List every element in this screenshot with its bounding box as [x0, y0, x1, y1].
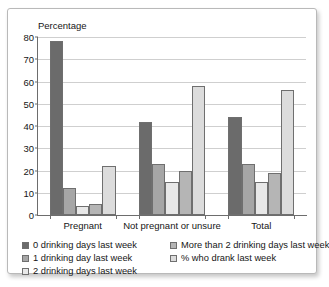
bar	[139, 122, 152, 215]
bar	[76, 206, 89, 215]
legend-label: 0 drinking days last week	[33, 240, 137, 250]
bar	[242, 164, 255, 215]
gridline: 70	[38, 59, 306, 60]
plot-area: 01020304050607080	[38, 37, 306, 215]
legend-item[interactable]: 2 drinking days last week	[22, 265, 137, 277]
y-axis-tick-label: 60	[23, 76, 34, 87]
x-axis-line	[37, 215, 307, 216]
x-axis-category-label: Not pregnant or unsure	[123, 220, 221, 231]
legend-column-right: More than 2 drinking days last week% who…	[170, 239, 329, 265]
x-axis-tick-mark	[228, 215, 229, 219]
y-axis-tick-label: 20	[23, 165, 34, 176]
legend-item[interactable]: More than 2 drinking days last week	[170, 239, 329, 251]
legend-item[interactable]: 1 drinking day last week	[22, 252, 137, 264]
x-axis-category-label: Pregnant	[63, 220, 102, 231]
bar	[192, 86, 205, 215]
bar	[281, 90, 294, 215]
y-axis-title: Percentage	[38, 20, 87, 31]
legend-swatch	[22, 242, 29, 249]
x-axis-tick-mark	[294, 215, 295, 219]
y-axis-tick-mark	[35, 170, 38, 171]
x-axis-tick-mark	[139, 215, 140, 219]
y-axis-tick-label: 30	[23, 143, 34, 154]
bar	[102, 166, 115, 215]
y-axis-tick-label: 0	[29, 210, 34, 221]
legend-swatch	[22, 255, 29, 262]
y-axis-tick-mark	[35, 148, 38, 149]
gridline: 40	[38, 126, 306, 127]
legend-label: 1 drinking day last week	[33, 253, 132, 263]
x-axis-tick-mark	[205, 215, 206, 219]
y-axis-tick-mark	[35, 81, 38, 82]
gridline: 80	[38, 37, 306, 38]
bar	[152, 164, 165, 215]
bar	[255, 182, 268, 215]
legend-label: More than 2 drinking days last week	[181, 240, 329, 250]
x-axis-tick-mark	[116, 215, 117, 219]
legend-column-left: 0 drinking days last week1 drinking day …	[22, 239, 137, 278]
y-axis-tick-label: 10	[23, 187, 34, 198]
bar	[179, 171, 192, 216]
y-axis-tick-mark	[35, 192, 38, 193]
y-axis-tick-label: 40	[23, 121, 34, 132]
legend-label: 2 drinking days last week	[33, 266, 137, 276]
gridline: 30	[38, 148, 306, 149]
y-axis-tick-mark	[35, 37, 38, 38]
bar	[63, 188, 76, 215]
x-axis-category-label: Total	[251, 220, 271, 231]
legend-item[interactable]: % who drank last week	[170, 252, 329, 264]
gridline: 20	[38, 171, 306, 172]
legend-item[interactable]: 0 drinking days last week	[22, 239, 137, 251]
cropped-caption-sliver	[8, 0, 308, 5]
legend-swatch	[22, 268, 29, 275]
legend-swatch	[170, 255, 177, 262]
bar	[50, 41, 63, 215]
legend-label: % who drank last week	[181, 253, 276, 263]
bar	[228, 117, 241, 215]
bar	[89, 204, 102, 215]
bar	[268, 173, 281, 215]
chart-card: Percentage 01020304050607080 PregnantNot…	[7, 8, 317, 274]
y-axis-tick-mark	[35, 126, 38, 127]
y-axis-tick-label: 80	[23, 32, 34, 43]
y-axis-tick-mark	[35, 103, 38, 104]
gridline: 50	[38, 104, 306, 105]
legend-swatch	[170, 242, 177, 249]
bar	[165, 182, 178, 215]
y-axis-tick-label: 50	[23, 98, 34, 109]
y-axis-tick-label: 70	[23, 54, 34, 65]
y-axis-tick-mark	[35, 59, 38, 60]
gridline: 60	[38, 82, 306, 83]
x-axis-tick-mark	[50, 215, 51, 219]
